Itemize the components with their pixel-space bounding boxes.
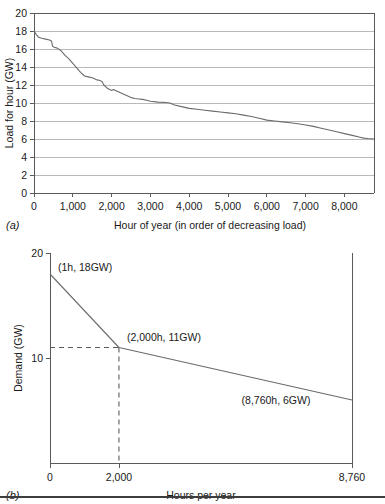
x-tick-label: 6,000	[254, 200, 280, 212]
x-tick-labels-a: 0 1,000 2,000 3,000 4,000 5,000 6,000 7,…	[31, 200, 358, 212]
annotation-baseload: (8,760h, 6GW)	[242, 394, 311, 406]
panel-letter-b: (b)	[6, 489, 20, 501]
x-tick-label: 7,000	[292, 200, 318, 212]
x-axis-title-b: Hours per year	[166, 489, 236, 501]
x-tick-label: 8,000	[331, 200, 357, 212]
y-tick-labels-a: 20 18 16 14 12 10 8 6 4 2 0	[15, 7, 27, 199]
y-tick-label: 6	[21, 133, 27, 145]
x-tick-marks-b	[50, 463, 352, 468]
x-axis-title-a: Hour of year (in order of decreasing loa…	[114, 219, 306, 231]
chart-panel-a: 20 18 16 14 12 10 8 6 4 2 0 0 1,000 2,00…	[0, 0, 385, 240]
x-tick-marks-a	[34, 193, 344, 197]
figure-load-duration-curves: 20 18 16 14 12 10 8 6 4 2 0 0 1,000 2,00…	[0, 0, 385, 504]
plot-frame-b	[50, 253, 352, 463]
y-tick-label: 20	[15, 7, 27, 19]
y-tick-label: 0	[21, 187, 27, 199]
annotation-midpoint: (2,000h, 11GW)	[127, 331, 201, 343]
y-tick-label: 20	[31, 247, 43, 259]
idealized-demand-curve-line	[50, 274, 352, 400]
chart-a-svg: 20 18 16 14 12 10 8 6 4 2 0 0 1,000 2,00…	[0, 0, 385, 240]
y-tick-label: 18	[15, 25, 27, 37]
y-tick-label: 8	[21, 115, 27, 127]
y-tick-label: 10	[31, 352, 43, 364]
x-tick-label: 0	[31, 200, 37, 212]
x-tick-label: 3,000	[137, 200, 163, 212]
x-tick-label: 8,760	[339, 471, 365, 483]
y-axis-title-b: Demand (GW)	[12, 324, 24, 392]
y-tick-label: 4	[21, 151, 27, 163]
y-tick-marks-b	[46, 253, 50, 358]
y-tick-label: 14	[15, 61, 27, 73]
y-tick-label: 12	[15, 79, 27, 91]
y-tick-label: 16	[15, 43, 27, 55]
annotation-peak: (1h, 18GW)	[58, 261, 112, 273]
y-tick-label: 2	[21, 169, 27, 181]
x-tick-label: 2,000	[98, 200, 124, 212]
x-tick-label: 2,000	[106, 471, 132, 483]
y-tick-label: 10	[15, 97, 27, 109]
chart-b-svg: 20 10 0 2,000 8,760 (1h, 18GW) (2,000h, …	[0, 240, 385, 504]
panel-letter-a: (a)	[6, 219, 20, 231]
y-axis-title-a: Load for hour (GW)	[3, 58, 15, 148]
y-tick-marks-a	[30, 13, 34, 193]
x-tick-label: 4,000	[176, 200, 202, 212]
chart-panel-b: 20 10 0 2,000 8,760 (1h, 18GW) (2,000h, …	[0, 240, 385, 504]
gridlines-horizontal	[34, 13, 374, 175]
footer-rule	[0, 496, 385, 498]
x-tick-label: 0	[47, 471, 53, 483]
x-tick-label: 1,000	[60, 200, 86, 212]
x-tick-label: 5,000	[215, 200, 241, 212]
